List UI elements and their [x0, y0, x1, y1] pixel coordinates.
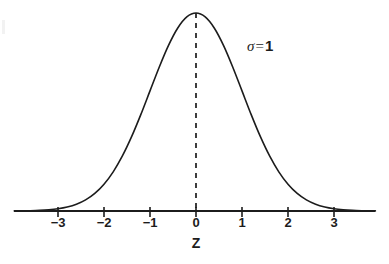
- x-axis-title: Z: [176, 236, 216, 251]
- sigma-annotation: σ=1: [247, 38, 273, 54]
- x-tick-label-plus3: 3: [317, 216, 351, 230]
- normal-distribution-figure: −3 −2 −1 0 1 2 3 Z σ=1: [0, 0, 389, 264]
- x-tick-label-minus1: −1: [133, 216, 167, 230]
- x-tick-label-zero: 0: [179, 216, 213, 230]
- sigma-value: 1: [265, 37, 273, 54]
- normal-curve: [14, 13, 375, 211]
- x-tick-label-minus2: −2: [87, 216, 121, 230]
- x-tick-label-plus2: 2: [271, 216, 305, 230]
- x-tick-label-plus1: 1: [225, 216, 259, 230]
- sigma-equals-sign: =: [254, 38, 264, 54]
- x-tick-label-minus3: −3: [41, 216, 75, 230]
